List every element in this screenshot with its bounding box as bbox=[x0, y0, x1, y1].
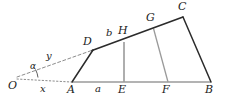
side-A-D bbox=[72, 50, 93, 82]
segment-label-a: a bbox=[95, 84, 101, 94]
segment-label-y: y bbox=[46, 51, 52, 61]
point-label-E: E bbox=[118, 84, 126, 95]
point-label-O: O bbox=[8, 80, 17, 91]
point-label-A: A bbox=[67, 84, 75, 95]
point-label-H: H bbox=[118, 25, 128, 36]
point-label-F: F bbox=[162, 84, 170, 95]
figure-canvas bbox=[0, 0, 232, 102]
point-label-D: D bbox=[83, 36, 92, 47]
divider-F-G bbox=[154, 29, 169, 83]
side-C-B bbox=[183, 17, 211, 82]
angle-label-alpha: α bbox=[30, 62, 36, 71]
ray-O-A-dotted bbox=[17, 79, 71, 82]
point-label-G: G bbox=[146, 12, 155, 23]
geometry-figure: O A E F B D H G C x a y b α bbox=[0, 0, 232, 102]
ray-O-D-dashed bbox=[17, 50, 93, 77]
point-label-B: B bbox=[205, 84, 213, 95]
segment-label-b: b bbox=[106, 28, 112, 38]
segment-label-x: x bbox=[40, 84, 46, 94]
point-label-C: C bbox=[178, 1, 186, 12]
